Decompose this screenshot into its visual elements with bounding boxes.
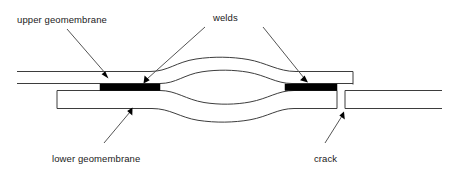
arrow-head-upper-geomembrane bbox=[102, 71, 109, 78]
arrow-head-weld-left bbox=[144, 76, 150, 84]
diagram-canvas: upper geomembrane welds lower geomembran… bbox=[0, 0, 459, 178]
leader-line-upper-geomembrane bbox=[67, 29, 106, 74]
label-crack: crack bbox=[314, 153, 337, 164]
lower-geomembrane-top-edge-left bbox=[57, 91, 337, 105]
lower-geomembrane bbox=[57, 91, 442, 123]
label-welds: welds bbox=[212, 12, 238, 23]
welds-group bbox=[100, 84, 337, 91]
label-lower-geomembrane: lower geomembrane bbox=[52, 153, 140, 164]
leader-line-weld-left bbox=[147, 27, 205, 79]
weld-left bbox=[100, 84, 160, 91]
leader-lower-geomembrane bbox=[104, 108, 133, 144]
lower-geomembrane-bottom-edge-left bbox=[57, 109, 337, 123]
geomembrane-weld-diagram: upper geomembrane welds lower geomembran… bbox=[0, 0, 459, 178]
arrow-head-weld-right bbox=[300, 76, 308, 83]
leader-line-lower-geomembrane bbox=[104, 112, 130, 143]
weld-right bbox=[285, 84, 337, 91]
label-upper-geomembrane: upper geomembrane bbox=[17, 14, 107, 25]
leader-weld-left bbox=[144, 27, 206, 84]
leader-crack bbox=[325, 112, 345, 144]
leader-weld-right bbox=[263, 27, 308, 83]
leader-line-crack bbox=[325, 116, 342, 143]
